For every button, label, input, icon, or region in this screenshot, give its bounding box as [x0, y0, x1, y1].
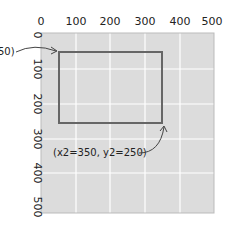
- y-tick: 300: [31, 129, 44, 150]
- coordinate-diagram: 0 100 200 300 400 500 0 100 200 300 400 …: [0, 0, 230, 227]
- y-tick: 0: [31, 32, 44, 39]
- y-tick: 200: [31, 94, 44, 115]
- x-tick: 100: [66, 15, 87, 28]
- y-tick: 400: [31, 163, 44, 184]
- x-tick: 300: [135, 15, 156, 28]
- y-tick: 500: [31, 197, 44, 218]
- end-point-label: (x2=350, y2=250): [53, 147, 147, 158]
- x-axis-ticks: 0 100 200 300 400 500: [38, 15, 223, 28]
- x-tick: 0: [38, 15, 45, 28]
- x-tick: 500: [202, 15, 223, 28]
- y-tick: 100: [31, 59, 44, 80]
- x-tick: 200: [100, 15, 121, 28]
- x-tick: 400: [170, 15, 191, 28]
- start-point-label: 50): [0, 46, 15, 57]
